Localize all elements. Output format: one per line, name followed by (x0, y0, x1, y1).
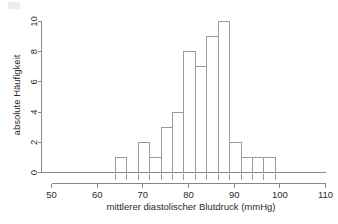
y-axis-tick-label: 8 (28, 49, 39, 54)
histogram-plot: 0246810 5060708090100110 mittlerer diast… (0, 0, 338, 224)
y-axis-tick-label: 0 (28, 170, 39, 175)
y-axis: 0246810 (28, 16, 41, 175)
x-axis-tick-label: 70 (138, 189, 149, 200)
y-axis-tick-label: 6 (28, 79, 39, 84)
y-axis-tick-label: 10 (28, 16, 39, 27)
x-axis-bin-ticks (115, 174, 275, 180)
x-axis-tick-label: 110 (318, 189, 333, 200)
histogram-bar (138, 142, 149, 172)
x-axis-tick-label: 80 (183, 189, 194, 200)
histogram-bar (207, 37, 218, 173)
histogram-bars (115, 22, 275, 173)
histogram-bar (264, 157, 275, 172)
histogram-bar (150, 157, 161, 172)
x-axis-tick-label: 100 (272, 189, 288, 200)
plot-canvas: 0246810 5060708090100110 mittlerer diast… (0, 0, 338, 224)
histogram-bar (184, 52, 195, 173)
x-axis-tick-label: 90 (229, 189, 240, 200)
x-axis-title: mittlerer diastolischer Blutdruck (mmHg) (107, 201, 276, 212)
histogram-bar (173, 112, 184, 172)
histogram-bar (252, 157, 263, 172)
histogram-bar (218, 22, 229, 173)
histogram-bar (161, 127, 172, 172)
x-axis: 5060708090100110 (46, 184, 333, 200)
x-axis-tick-label: 60 (92, 189, 103, 200)
y-axis-tick-label: 2 (28, 140, 39, 145)
x-axis-tick-label: 50 (46, 189, 57, 200)
histogram-bar (230, 142, 241, 172)
y-axis-title: absolute Häufigkeit (11, 54, 22, 135)
y-axis-tick-label: 4 (28, 109, 39, 114)
histogram-bar (195, 67, 206, 173)
histogram-bar (241, 157, 252, 172)
histogram-bar (115, 157, 126, 172)
